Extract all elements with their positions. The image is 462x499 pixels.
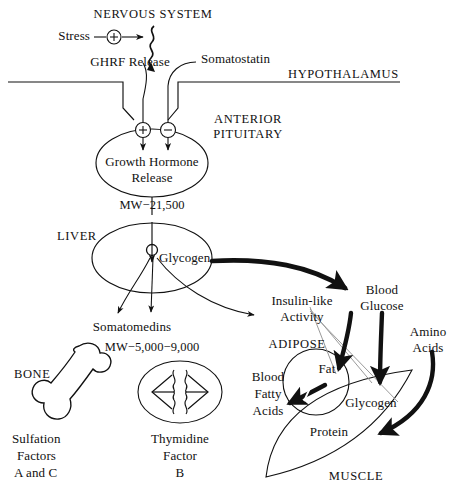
thymidine-line1-label: Thymidine (151, 432, 209, 446)
blood-glucose-to-fat-arrow (339, 313, 351, 368)
ghrf-release-label: GHRF Release (90, 55, 170, 69)
blood-glucose-to-muscle-glycogen-arrow (380, 313, 382, 382)
bone-label: BONE (14, 368, 50, 382)
stress-label: Stress (58, 29, 90, 43)
muscle-glycogen-label: Glycogen (345, 396, 396, 410)
adipose-label: ADIPOSE (269, 338, 326, 352)
nervous-system-label: NERVOUS SYSTEM (94, 8, 213, 22)
anterior-label: ANTERIOR (214, 113, 282, 127)
liver-glycogen-label: Glycogen (159, 251, 210, 265)
somatostatin-duct (168, 62, 196, 122)
blood-fatty-line3-label: Acids (253, 404, 284, 418)
sulfation-line1-label: Sulfation (12, 432, 61, 446)
thymidine-cell-shape (138, 361, 222, 423)
hypothalamus-label: HYPOTHALAMUS (288, 68, 399, 82)
muscle-label: MUSCLE (329, 470, 383, 484)
diagram-page: NERVOUS SYSTEM Stress GHRF Release Somat… (0, 0, 462, 499)
mw-growth-hormone-label: MW−21,500 (119, 199, 184, 213)
blood-fatty-line1-label: Blood (252, 370, 284, 384)
somatostatin-label: Somatostatin (201, 52, 270, 66)
blood-label: Blood (366, 283, 398, 297)
thymidine-line2-label: Factor (163, 449, 197, 463)
mw-somatomedins-label: MW−5,000−9,000 (105, 341, 200, 355)
ghrf-duct (143, 63, 146, 122)
somatomedin-arrows (118, 258, 254, 315)
liver-label: LIVER (57, 230, 97, 244)
somatomedins-label: Somatomedins (93, 320, 171, 334)
stress-arrow (94, 30, 143, 44)
protein-label: Protein (310, 425, 348, 439)
sulfation-line3-label: A and C (14, 466, 57, 480)
liver-to-blood-glucose-arrow (212, 260, 345, 288)
fat-label: Fat (319, 362, 336, 376)
release-label: Release (131, 171, 172, 185)
acids-label: Acids (413, 341, 444, 355)
amino-label: Amino (410, 325, 447, 339)
minus-sign-node (161, 123, 176, 151)
pituitary-label: PITUITARY (213, 128, 283, 142)
hypothalamus-outline (8, 82, 400, 120)
growth-hormone-label: Growth Hormone (105, 155, 198, 169)
blood-fatty-line2-label: Fatty (254, 387, 281, 401)
insulin-like-line2-label: Activity (280, 310, 323, 324)
adipose-circle (283, 349, 349, 415)
thymidine-line3-label: B (176, 466, 185, 480)
glucose-label: Glucose (360, 299, 403, 313)
sulfation-line2-label: Factors (17, 449, 56, 463)
fat-to-blood-fatty-acids-arrow (290, 385, 325, 403)
plus-sign-node (136, 123, 151, 151)
insulin-like-line1-label: Insulin-like (271, 294, 332, 308)
